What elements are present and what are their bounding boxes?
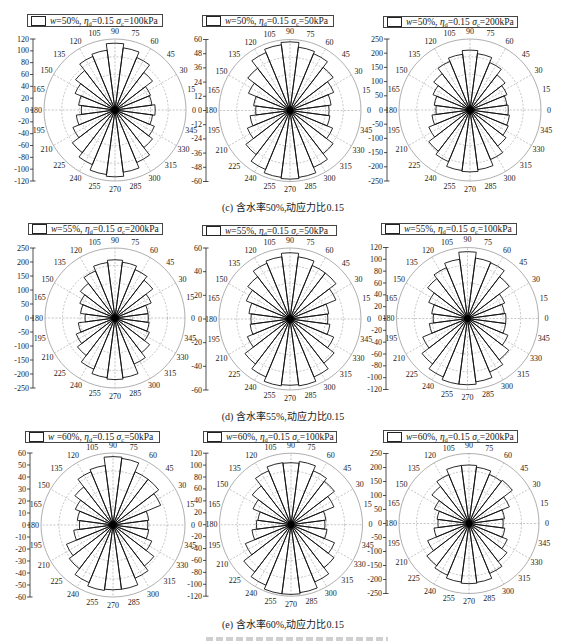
angle-label: 315 xyxy=(341,576,353,585)
y-tick-label: 60 xyxy=(374,279,382,288)
angle-label: 150 xyxy=(41,275,53,284)
angle-label: 210 xyxy=(38,561,50,570)
angle-label: 165 xyxy=(385,294,397,303)
y-tick-label: 200 xyxy=(17,258,29,267)
legend-swatch xyxy=(206,16,221,26)
angle-label: 15 xyxy=(540,499,548,508)
angle-label: 180 xyxy=(385,519,397,528)
rose-bar xyxy=(115,110,153,148)
angle-label: 150 xyxy=(395,480,407,489)
angle-label: 60 xyxy=(506,37,514,46)
y-tick-label: 30 xyxy=(18,485,26,494)
angle-label: 285 xyxy=(483,594,495,603)
legend-label: w=50%, ηd=0.15 σc=50kPa xyxy=(225,16,328,26)
angle-label: 120 xyxy=(245,246,257,255)
rose-bar xyxy=(75,525,113,583)
y-tick-label: -20 xyxy=(15,545,26,554)
angle-label: 345 xyxy=(540,126,552,135)
y-tick-label: -100 xyxy=(367,547,382,556)
rose-bar xyxy=(428,279,468,319)
y-tick-label: -40 xyxy=(371,338,382,347)
rose-bar xyxy=(434,268,467,319)
angle-label: 255 xyxy=(86,598,98,607)
angle-label: 345 xyxy=(538,334,550,343)
rose-bar xyxy=(290,319,328,377)
rose-bar xyxy=(84,271,115,318)
angle-label: 240 xyxy=(245,589,257,598)
y-tick-label: 80 xyxy=(374,267,382,276)
y-tick-label: -24 xyxy=(191,134,202,143)
rose-bar xyxy=(248,277,290,319)
center-hub xyxy=(287,107,294,114)
rose-bar xyxy=(79,110,115,165)
rose-bar xyxy=(253,500,291,525)
center-hub xyxy=(467,107,474,114)
angle-label: 135 xyxy=(406,258,418,267)
y-tick-label: 40 xyxy=(21,82,29,91)
angle-label: 255 xyxy=(443,594,455,603)
y-tick-label: 200 xyxy=(370,463,382,472)
y-tick-label: 0 xyxy=(25,314,29,323)
rose-chart-w55-sigma50: 6040200-20-40-60015304560759010512013515… xyxy=(185,212,378,422)
rose-bar xyxy=(115,110,154,136)
rose-plot: 6040200-20-40-60015304560759010512013515… xyxy=(185,212,378,422)
y-tick-label: -48 xyxy=(191,163,202,172)
y-tick-label: -100 xyxy=(187,580,202,589)
rose-bar xyxy=(469,524,502,574)
angle-label: 60 xyxy=(504,451,512,460)
y-tick-label: 20 xyxy=(194,508,202,517)
angle-label: 150 xyxy=(393,275,405,284)
rose-chart-w50-sigma100: 120100806040200-20-40-60-80-100-12001530… xyxy=(0,0,193,210)
y-tick-label: 60 xyxy=(18,449,26,458)
angle-label: 180 xyxy=(31,314,43,323)
rose-bar xyxy=(75,487,113,525)
angle-label: 285 xyxy=(129,389,141,398)
angle-label: 225 xyxy=(53,161,65,170)
y-tick-label: 100 xyxy=(17,46,29,55)
y-tick-label: -40 xyxy=(18,129,29,138)
rose-bar xyxy=(436,110,470,162)
angle-label: 90 xyxy=(111,27,119,36)
y-tick-label: -120 xyxy=(367,385,382,394)
angle-label: 120 xyxy=(70,246,82,255)
angle-label: 240 xyxy=(245,174,257,183)
y-tick-label: 36 xyxy=(194,63,202,72)
rose-bar xyxy=(72,110,115,153)
y-tick-label: -36 xyxy=(191,149,202,158)
legend: w=60%, ηd=0.15 σc=200kPa xyxy=(383,430,518,443)
angle-label: 165 xyxy=(208,86,220,95)
angle-label: 285 xyxy=(304,182,316,191)
rose-chart-w60-sigma100: 120100806040200-20-40-60-80-100-12001530… xyxy=(185,420,378,630)
y-tick-label: -100 xyxy=(367,373,382,382)
legend-label: w=50%, ηd=0.15 σc=100kPa xyxy=(50,16,158,26)
angle-label: 195 xyxy=(388,539,400,548)
legend-label: w=50%, ηd=0.15 σc=200kPa xyxy=(406,17,514,27)
rose-bar xyxy=(81,318,115,369)
rose-chart-w50-sigma50: 60483624120-12-24-36-48-6001530456075901… xyxy=(185,0,378,210)
rose-plot: 120100806040200-20-40-60-80-100-12001530… xyxy=(0,0,193,210)
y-tick-label: 10 xyxy=(18,509,26,518)
angle-label: 240 xyxy=(67,590,79,599)
angle-label: 240 xyxy=(424,587,436,596)
rose-bar xyxy=(115,280,153,318)
angle-label: 195 xyxy=(208,541,220,550)
angle-label: 105 xyxy=(443,444,455,453)
angle-label: 90 xyxy=(111,236,119,245)
y-tick-label: 50 xyxy=(374,505,382,514)
legend-swatch xyxy=(387,432,402,442)
angle-label: 255 xyxy=(89,389,101,398)
angle-label: 300 xyxy=(501,382,513,391)
rose-bar xyxy=(251,525,291,586)
rose-bar xyxy=(468,319,508,346)
rose-bar xyxy=(469,480,512,523)
y-tick-label: 40 xyxy=(194,496,202,505)
angle-label: 195 xyxy=(208,126,220,135)
y-tick-label: 120 xyxy=(17,35,29,44)
angle-label: 210 xyxy=(216,146,228,155)
angle-label: 15 xyxy=(540,294,548,303)
angle-label: 345 xyxy=(538,539,550,548)
y-tick-label: 60 xyxy=(194,35,202,44)
y-tick-label: -60 xyxy=(191,177,202,186)
y-tick-label: 0 xyxy=(378,314,382,323)
y-tick-label: 120 xyxy=(190,449,202,458)
